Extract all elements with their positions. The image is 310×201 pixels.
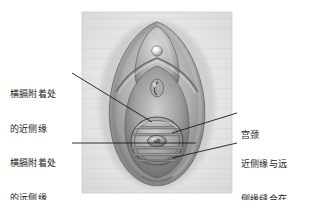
- clitoris-highlight: [152, 46, 163, 56]
- label-proximal-rim-line-2: 的近侧缘: [10, 124, 56, 136]
- urethral-opening: [151, 79, 164, 97]
- label-distal-rim-line-1: 横膈附着处: [10, 158, 56, 170]
- label-distal-rim: 横膈附着处 的远侧缘: [10, 135, 56, 200]
- cervix-bump: [148, 135, 167, 146]
- label-rims-sutured: 近侧缘与远 侧缘缝合在 一起: [241, 136, 287, 200]
- label-rims-sutured-line-1: 近侧缘与远: [241, 159, 287, 171]
- label-proximal-rim-line-1: 横膈附着处: [10, 89, 56, 101]
- label-distal-rim-line-2: 的远侧缘: [10, 193, 56, 201]
- label-rims-sutured-line-2: 侧缘缝合在: [241, 194, 287, 201]
- illustration-panel: [82, 12, 232, 193]
- medical-illustration-figure: 横膈附着处 的近侧缘 横膈附着处 的远侧缘 宫颈 近侧缘与远 侧缘缝合在 一起: [0, 0, 310, 200]
